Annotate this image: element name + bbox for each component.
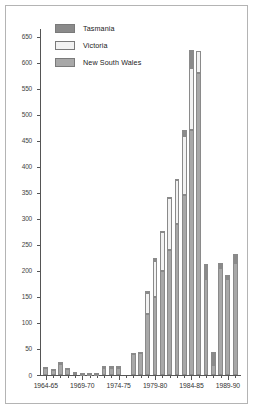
x-tick-minor: [133, 376, 134, 378]
x-tick-minor: [206, 376, 207, 378]
bar[interactable]: [167, 197, 172, 375]
bar-segment: [182, 195, 187, 375]
x-tick-minor: [60, 376, 61, 378]
bar[interactable]: [43, 367, 48, 375]
bar[interactable]: [182, 130, 187, 375]
x-tick-label: 1974-75: [99, 382, 139, 390]
bar[interactable]: [189, 50, 194, 375]
bar-segment: [196, 51, 201, 73]
bar[interactable]: [175, 179, 180, 375]
bar-segment: [160, 231, 165, 233]
y-tick: [37, 89, 41, 90]
bar-segment: [116, 366, 121, 368]
bar-segment: [218, 263, 223, 268]
legend-label: Tasmania: [83, 24, 115, 33]
bar[interactable]: [58, 362, 63, 375]
y-tick: [37, 63, 41, 64]
bar-segment: [189, 50, 194, 68]
x-tick-minor: [177, 376, 178, 378]
x-tick-minor: [53, 376, 54, 378]
y-tick: [37, 167, 41, 168]
bar[interactable]: [94, 373, 99, 375]
bar[interactable]: [131, 353, 136, 375]
x-tick-minor: [75, 376, 76, 378]
x-tick-major: [82, 376, 83, 380]
legend-swatch: [55, 41, 75, 50]
bar-segment: [131, 353, 136, 355]
legend-item: Victoria: [55, 39, 141, 52]
legend-item: Tasmania: [55, 22, 141, 35]
bar[interactable]: [196, 51, 201, 375]
bar[interactable]: [225, 275, 230, 375]
x-tick-minor: [148, 376, 149, 378]
bar-segment: [204, 279, 209, 375]
bar[interactable]: [109, 366, 114, 375]
bar[interactable]: [153, 258, 158, 375]
y-tick-label: 350: [6, 189, 32, 196]
x-tick-minor: [104, 376, 105, 378]
bar[interactable]: [138, 352, 143, 375]
bar-segment: [43, 367, 48, 369]
y-tick-label: 650: [6, 33, 32, 40]
y-tick-label: 100: [6, 319, 32, 326]
bar-segment: [80, 373, 85, 375]
bar-segment: [153, 297, 158, 375]
bar-segment: [43, 368, 48, 375]
bar-segment: [175, 180, 180, 224]
bar[interactable]: [160, 231, 165, 375]
legend-label: Victoria: [83, 41, 108, 50]
bar-segment: [211, 365, 216, 375]
bar[interactable]: [204, 264, 209, 375]
x-tick-minor: [235, 376, 236, 378]
bar-segment: [175, 224, 180, 375]
bar-segment: [160, 232, 165, 271]
x-tick-label: 1984-85: [171, 382, 211, 390]
bar[interactable]: [145, 291, 150, 375]
bar-segment: [94, 373, 99, 375]
y-tick-label: 150: [6, 293, 32, 300]
x-tick-minor: [126, 376, 127, 378]
bar[interactable]: [218, 263, 223, 375]
bar[interactable]: [116, 366, 121, 375]
bar-segment: [225, 275, 230, 279]
bar-segment: [153, 258, 158, 261]
bar-segment: [109, 368, 114, 375]
x-tick-major: [46, 376, 47, 380]
bar-segment: [204, 264, 209, 279]
x-tick-minor: [170, 376, 171, 378]
bar-segment: [189, 130, 194, 375]
bar[interactable]: [233, 254, 238, 375]
x-tick-major: [155, 376, 156, 380]
y-tick-label: 450: [6, 137, 32, 144]
y-tick-label: 500: [6, 111, 32, 118]
y-tick: [37, 193, 41, 194]
y-tick: [37, 245, 41, 246]
bar-segment: [73, 372, 78, 374]
bar-segment: [87, 373, 92, 375]
x-tick-label: 1969-70: [62, 382, 102, 390]
y-tick: [37, 323, 41, 324]
y-tick: [37, 115, 41, 116]
x-tick-major: [191, 376, 192, 380]
y-tick: [37, 37, 41, 38]
bar-segment: [196, 73, 201, 375]
bar[interactable]: [87, 373, 92, 375]
stacked-bar-chart: 050100150200250300350400450500550600650 …: [0, 0, 255, 411]
bar[interactable]: [65, 368, 70, 375]
bar-segment: [182, 136, 187, 196]
bar-segment: [65, 368, 70, 370]
y-tick-label: 250: [6, 241, 32, 248]
y-tick-label: 550: [6, 85, 32, 92]
bar[interactable]: [73, 372, 78, 375]
bar[interactable]: [51, 369, 56, 375]
x-tick-major: [119, 376, 120, 380]
y-tick-label: 300: [6, 215, 32, 222]
y-tick: [37, 375, 41, 376]
legend-label: New South Wales: [83, 58, 141, 67]
bar[interactable]: [102, 366, 107, 375]
bar[interactable]: [211, 352, 216, 375]
bar-segment: [138, 353, 143, 375]
bar-segment: [167, 198, 172, 250]
bar[interactable]: [80, 373, 85, 375]
x-tick-label: 1979-80: [135, 382, 175, 390]
